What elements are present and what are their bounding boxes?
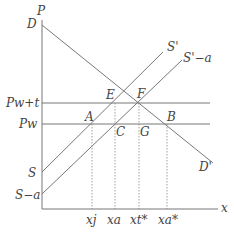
demand-curve: [42, 25, 213, 163]
point-label-a: A: [84, 110, 94, 124]
label-s-prime: S': [167, 40, 179, 54]
label-d: D: [26, 17, 37, 31]
label-s-prime-minus-a: S'−a: [183, 51, 212, 65]
point-label-b: B: [166, 110, 176, 124]
tick-label-xa-star: xa*: [158, 213, 178, 227]
label-s: S: [28, 166, 36, 180]
tick-label-xt-star: xt*: [130, 213, 148, 227]
point-label-g: G: [140, 125, 150, 139]
axis-label-p: P: [36, 4, 46, 18]
supply-curve-s: [42, 52, 163, 172]
tick-label-xj: xj: [86, 213, 97, 227]
point-label-f: F: [136, 87, 146, 101]
point-label-e: E: [105, 88, 115, 102]
axis-label-x: x: [221, 201, 228, 215]
label-d-prime: D': [198, 160, 212, 174]
label-pw: Pw: [18, 117, 38, 131]
point-label-c: C: [116, 125, 125, 139]
label-s-minus-a: S−a: [15, 188, 40, 202]
label-pw-t: Pw+t: [5, 96, 39, 110]
supply-curve-s-minus-a: [42, 60, 182, 194]
tick-label-xa: xa: [107, 213, 121, 227]
tariff-diagram: P x D D' S S' S−a S'−a Pw+t Pw E F A B C…: [0, 0, 234, 235]
